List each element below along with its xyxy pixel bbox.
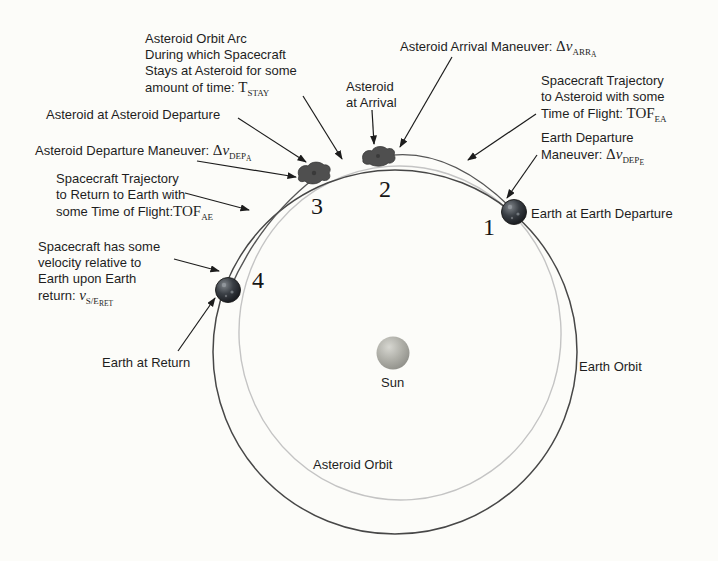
- waypoint-2: 2: [379, 177, 391, 201]
- label-asteroid-departure-maneuver: Asteroid Departure Maneuver: ΔvDEPA: [35, 142, 252, 167]
- label-earth-at-return: Earth at Return: [102, 355, 190, 371]
- arrow-earth-departure-maneuver: [507, 155, 537, 198]
- label-line: Earth Departure: [541, 130, 644, 146]
- label-stay-arc: Asteroid Orbit Arc During which Spacecra…: [145, 31, 297, 101]
- earth-at-return-icon: [216, 278, 241, 303]
- arrow-velocity-at-return: [174, 259, 219, 271]
- label-asteroid-orbit: Asteroid Orbit: [313, 457, 392, 473]
- label-earth-orbit: Earth Orbit: [579, 359, 642, 375]
- label-tof-ea: Spacecraft Trajectory to Asteroid with s…: [541, 73, 667, 127]
- label-velocity-at-return: Spacecraft has some velocity relative to…: [38, 239, 160, 312]
- arrow-arrival-maneuver: [400, 57, 452, 147]
- label-line: Stays at Asteroid for some: [145, 63, 297, 79]
- label-line: Time of Flight: TOFEA: [541, 105, 667, 127]
- earth-at-departure-icon: [502, 200, 527, 225]
- label-line: some Time of Flight:TOFAE: [56, 203, 213, 225]
- label-arrival-maneuver: Asteroid Arrival Maneuver: ΔvARRA: [400, 38, 596, 63]
- label-line: Maneuver: ΔvDEPE: [541, 146, 644, 171]
- label-line: amount of time: TSTAY: [145, 79, 297, 101]
- arrow-tof-ea: [468, 114, 536, 160]
- label-asteroid-at-arrival: Asteroid at Arrival: [346, 79, 397, 111]
- label-line: Spacecraft Trajectory: [541, 73, 667, 89]
- label-sun: Sun: [381, 375, 404, 391]
- waypoint-4: 4: [252, 268, 264, 292]
- waypoint-3: 3: [311, 194, 323, 218]
- label-line: Spacecraft has some: [38, 239, 160, 255]
- label-line: Asteroid: [346, 79, 397, 95]
- label-asteroid-at-asteroid-departure: Asteroid at Asteroid Departure: [46, 107, 220, 123]
- arrow-asteroid-at-arrival: [372, 110, 374, 144]
- arrow-stay-arc: [303, 96, 342, 159]
- asteroid-texture-dot: [376, 154, 380, 158]
- label-earth-at-earth-departure: Earth at Earth Departure: [531, 206, 673, 222]
- label-line: velocity relative to: [38, 255, 160, 271]
- label-line: Asteroid Orbit Arc: [145, 31, 297, 47]
- waypoint-1: 1: [483, 215, 495, 239]
- label-earth-departure-maneuver: Earth Departure Maneuver: ΔvDEPE: [541, 130, 644, 171]
- label-line: Earth upon Earth: [38, 271, 160, 287]
- mission-diagram: Asteroid Orbit Arc During which Spacecra…: [0, 0, 718, 561]
- arrow-earth-at-return: [178, 298, 215, 351]
- label-tof-ae: Spacecraft Trajectory to Return to Earth…: [56, 171, 213, 225]
- label-line: to Return to Earth with: [56, 187, 213, 203]
- trajectory-earth-to-asteroid: [380, 155, 516, 213]
- asteroid-texture-dot: [312, 171, 316, 175]
- label-line: Spacecraft Trajectory: [56, 171, 213, 187]
- sun-icon: [377, 337, 410, 370]
- label-line: return: vS/ERET: [38, 287, 160, 312]
- label-line: During which Spacecraft: [145, 47, 297, 63]
- trajectory-asteroid-to-earth: [229, 177, 316, 291]
- label-line: to Asteroid with some: [541, 89, 667, 105]
- label-line: at Arrival: [346, 95, 397, 111]
